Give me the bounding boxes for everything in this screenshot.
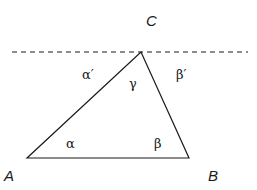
angle-label-beta-prime: β′ <box>176 67 187 82</box>
vertex-label-b: B <box>208 167 218 184</box>
angle-label-beta: β <box>154 136 162 151</box>
triangle-diagram: A B C α β γ α′ β′ <box>0 0 257 190</box>
angle-label-gamma: γ <box>129 76 137 91</box>
triangle-abc <box>27 52 189 158</box>
angle-label-alpha-prime: α′ <box>82 67 94 82</box>
vertex-label-a: A <box>3 167 14 184</box>
vertex-label-c: C <box>146 12 157 29</box>
angle-label-alpha: α <box>66 136 75 151</box>
